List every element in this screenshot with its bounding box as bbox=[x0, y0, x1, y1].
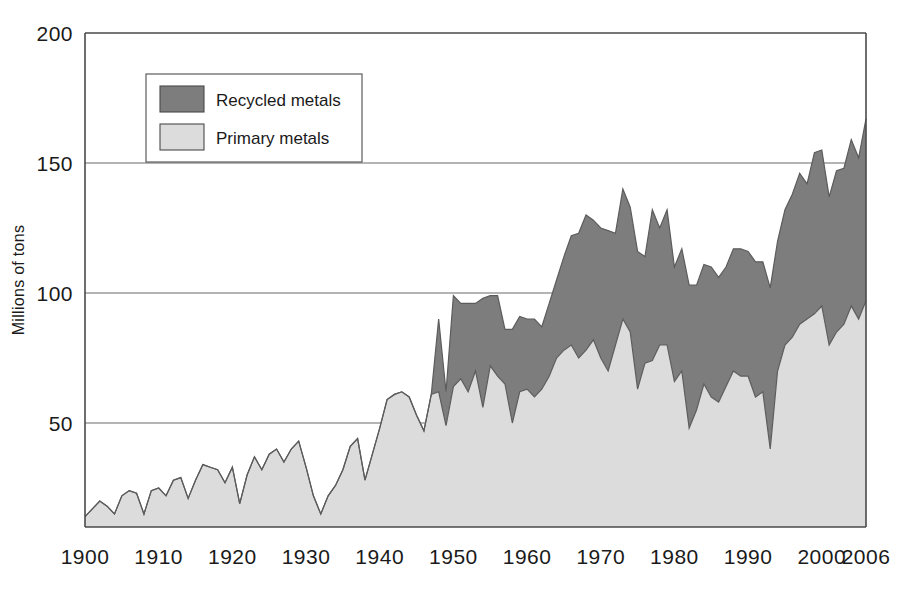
y-tick-label-50: 50 bbox=[49, 412, 73, 435]
x-tick-label-1990: 1990 bbox=[724, 545, 773, 568]
y-tick-label-150: 150 bbox=[36, 152, 73, 175]
stacked-area-chart: 50100150200 1900191019201930194019501960… bbox=[0, 0, 897, 593]
chart-figure: 50100150200 1900191019201930194019501960… bbox=[0, 0, 897, 593]
y-tick-label-200: 200 bbox=[36, 22, 73, 45]
legend-swatch-primary bbox=[160, 124, 204, 150]
x-tick-label-1970: 1970 bbox=[576, 545, 625, 568]
x-tick-label-1910: 1910 bbox=[134, 545, 183, 568]
y-axis-tick-labels: 50100150200 bbox=[36, 22, 73, 435]
legend-label-recycled: Recycled metals bbox=[216, 91, 341, 110]
x-tick-label-1920: 1920 bbox=[208, 545, 257, 568]
x-tick-label-1980: 1980 bbox=[650, 545, 699, 568]
x-tick-label-1960: 1960 bbox=[503, 545, 552, 568]
chart-legend: Recycled metals Primary metals bbox=[146, 74, 362, 162]
legend-label-primary: Primary metals bbox=[216, 129, 329, 148]
x-tick-label-2000: 2000 bbox=[797, 545, 846, 568]
x-axis-tick-labels: 1900191019201930194019501960197019801990… bbox=[61, 545, 891, 568]
legend-swatch-recycled bbox=[160, 86, 204, 112]
x-tick-label-1950: 1950 bbox=[429, 545, 478, 568]
x-tick-label-1940: 1940 bbox=[355, 545, 404, 568]
x-tick-label-1900: 1900 bbox=[61, 545, 110, 568]
y-tick-label-100: 100 bbox=[36, 282, 73, 305]
x-tick-label-1930: 1930 bbox=[282, 545, 331, 568]
x-tick-label-2006: 2006 bbox=[842, 545, 891, 568]
y-axis-title: Millions of tons bbox=[10, 225, 27, 336]
